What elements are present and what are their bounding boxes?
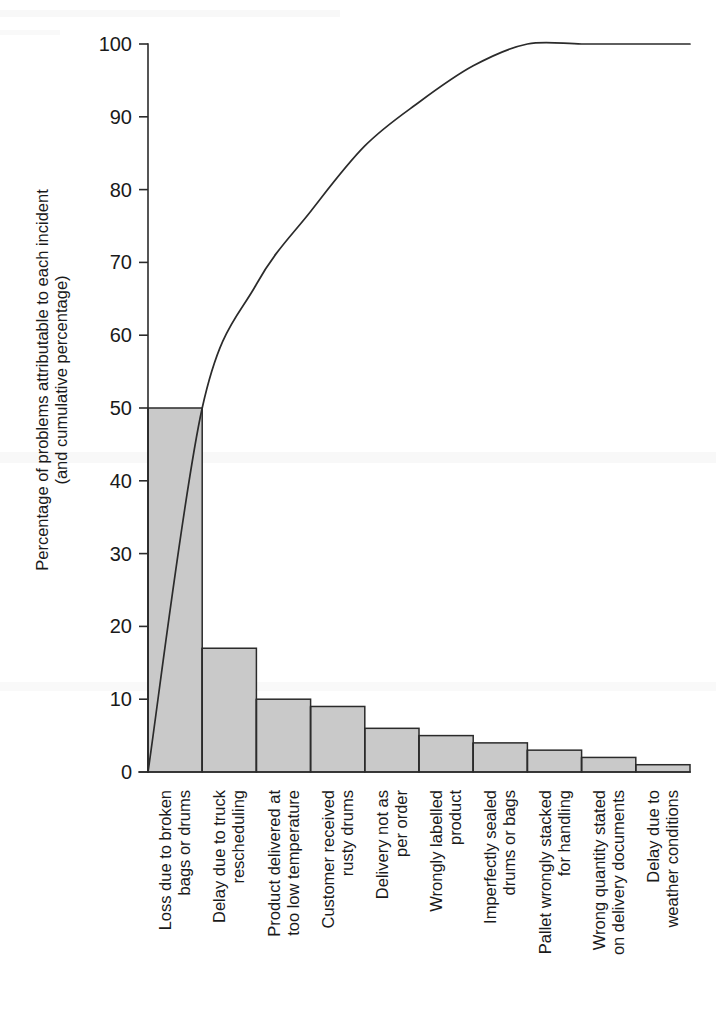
x-axis-category-label: Imperfectly sealeddrums or bags: [481, 790, 520, 1018]
x-axis-category-label-line: per order: [392, 790, 411, 1018]
y-axis-ticks: 0102030405060708090100: [99, 33, 148, 783]
x-axis-category-label-line: Delay due to: [644, 790, 663, 1018]
bar: [527, 750, 581, 772]
x-axis-category-label-line: weather conditions: [663, 790, 682, 1018]
y-tick-label: 30: [110, 543, 132, 565]
x-axis-category-label: Delay due toweather conditions: [644, 790, 683, 1018]
x-axis-category-label-line: bags or drums: [175, 790, 194, 1018]
x-axis-category-label-line: too low temperature: [284, 790, 303, 1018]
bar: [636, 765, 690, 772]
bar: [311, 706, 365, 772]
x-axis-category-label: Delay due to truckrescheduling: [210, 790, 249, 1018]
x-axis-category-label-line: product: [446, 790, 465, 1018]
y-tick-label: 70: [110, 251, 132, 273]
y-tick-label: 0: [121, 761, 132, 783]
y-tick-label: 100: [99, 33, 132, 55]
x-axis-category-label-line: Loss due to broken: [156, 790, 175, 1018]
x-axis-category-label-line: for handling: [555, 790, 574, 1018]
x-axis-category-label: Delivery not asper order: [373, 790, 412, 1018]
y-tick-label: 40: [110, 470, 132, 492]
x-axis-category-label-line: Imperfectly sealed: [481, 790, 500, 1018]
y-tick-label: 10: [110, 688, 132, 710]
x-axis-category-label-line: Delivery not as: [373, 790, 392, 1018]
bar: [473, 743, 527, 772]
y-tick-label: 20: [110, 615, 132, 637]
x-axis-category-label: Customer receivedrusty drums: [319, 790, 358, 1018]
x-axis-category-label-line: Product delivered at: [265, 790, 284, 1018]
x-axis-category-label-line: Customer received: [319, 790, 338, 1018]
x-axis-category-label: Loss due to brokenbags or drums: [156, 790, 195, 1018]
x-axis-category-label-line: Wrong quantity stated: [590, 790, 609, 1018]
pareto-chart: Percentage of problems attributable to e…: [0, 0, 716, 1029]
x-axis-category-label: Wrongly labelledproduct: [427, 790, 466, 1018]
bar-series: [148, 408, 690, 772]
x-axis-category-label-line: Pallet wrongly stacked: [536, 790, 555, 1018]
x-axis-category-label-line: rescheduling: [230, 790, 249, 1018]
x-axis-category-label: Pallet wrongly stackedfor handling: [536, 790, 575, 1018]
x-axis-category-label-line: rusty drums: [338, 790, 357, 1018]
x-axis-category-label: Wrong quantity statedon delivery documen…: [590, 790, 629, 1018]
x-axis-category-label-line: Delay due to truck: [210, 790, 229, 1018]
y-tick-label: 90: [110, 106, 132, 128]
bar: [419, 736, 473, 772]
y-tick-label: 50: [110, 397, 132, 419]
bar: [365, 728, 419, 772]
x-axis-category-label-line: drums or bags: [501, 790, 520, 1018]
x-axis-category-label-line: Wrongly labelled: [427, 790, 446, 1018]
x-axis-category-label: Product delivered attoo low temperature: [265, 790, 304, 1018]
x-axis-category-label-line: on delivery documents: [609, 790, 628, 1018]
bar: [256, 699, 310, 772]
bar: [202, 648, 256, 772]
y-tick-label: 60: [110, 324, 132, 346]
y-tick-label: 80: [110, 179, 132, 201]
bar: [582, 757, 636, 772]
